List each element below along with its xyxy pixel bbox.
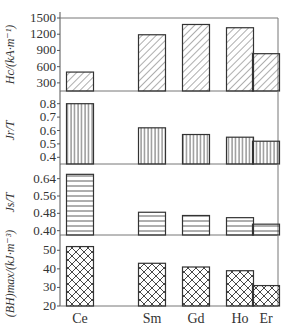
bar-ho [227,271,254,306]
chart-panels: 30060090012001500Hc/(kA·m⁻¹)0.40.50.60.7… [3,10,280,317]
x-tick-label: Ho [231,311,248,326]
y-tick-label: 0.4 [40,149,57,164]
y-tick-label: 1500 [30,10,56,25]
y-tick-label: 600 [37,59,57,74]
y-tick-label: 0.48 [33,205,56,220]
bar-er [253,286,280,306]
bar-sm [139,212,166,235]
y-tick-label: 30 [43,279,56,294]
y-tick-label: 0.5 [40,136,56,151]
y-axis-label: Jr/T [3,119,17,140]
bar-ho [227,28,254,91]
bar-ho [227,218,254,235]
chart-figure: 30060090012001500Hc/(kA·m⁻¹)0.40.50.60.7… [0,0,293,331]
x-axis-labels: CeSmGdHoEr [72,311,273,326]
x-tick-label: Ce [72,311,88,326]
bar-ce [67,174,94,235]
y-tick-label: 40 [43,261,56,276]
y-tick-label: 1200 [30,26,56,41]
bar-er [253,141,280,164]
y-tick-label: 0.40 [33,223,56,238]
bar-er [253,54,280,91]
y-tick-label: 20 [43,298,56,313]
panel-4: 20304050(BH)max/(kJ·m⁻³) [3,230,280,318]
y-axis-label: Hc/(kA·m⁻¹) [3,25,17,86]
y-tick-label: 0.56 [33,188,56,203]
y-tick-label: 900 [37,42,57,57]
bar-gd [183,135,210,164]
y-tick-label: 0.7 [40,109,57,124]
y-tick-label: 0.64 [33,171,56,186]
y-tick-label: 0.6 [40,123,57,138]
bar-sm [139,263,166,306]
bar-ce [67,72,94,91]
bar-gd [183,267,210,306]
bar-ce [67,104,94,164]
x-tick-label: Er [259,311,273,326]
y-tick-label: 50 [43,242,56,257]
x-tick-label: Gd [187,311,204,326]
panel-3: 0.400.480.560.64Js/T [3,164,280,238]
y-axis-label: (BH)max/(kJ·m⁻³) [3,230,17,318]
bar-ce [67,247,94,306]
bar-sm [139,35,166,91]
bar-er [253,224,280,235]
y-tick-label: 300 [37,75,57,90]
y-tick-label: 0.8 [40,96,56,111]
x-tick-label: Sm [143,311,162,326]
bar-ho [227,137,254,164]
bar-gd [183,24,210,91]
y-axis-label: Js/T [3,191,17,212]
panel-2: 0.40.50.60.70.8Jr/T [3,91,280,164]
panel-1: 30060090012001500Hc/(kA·m⁻¹) [3,10,280,91]
bar-gd [183,216,210,236]
bar-sm [139,128,166,164]
